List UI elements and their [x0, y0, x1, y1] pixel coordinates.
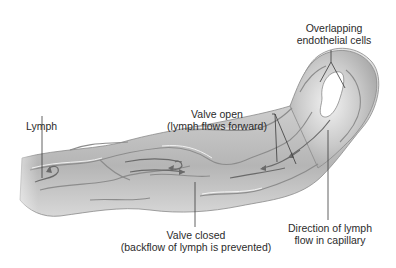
lymph-capillary-diagram: Overlapping endothelial cells Valve open…	[0, 0, 396, 268]
label-direction-line1: Direction of lymph	[280, 222, 380, 234]
label-valve-closed-line2: (backflow of lymph is prevented)	[120, 241, 272, 253]
label-direction-line2: flow in capillary	[280, 234, 380, 246]
label-valve-open-line1: Valve open	[158, 108, 276, 120]
label-valve-open-line2: (lymph flows forward)	[158, 120, 276, 132]
label-valve-open: Valve open (lymph flows forward)	[158, 108, 276, 132]
label-valve-closed-line1: Valve closed	[120, 229, 272, 241]
label-overlapping-line2: endothelial cells	[292, 34, 376, 46]
label-valve-closed: Valve closed (backflow of lymph is preve…	[120, 229, 272, 253]
label-lymph-text: Lymph	[26, 120, 57, 132]
label-overlapping-endothelial-cells: Overlapping endothelial cells	[292, 22, 376, 46]
label-lymph: Lymph	[26, 120, 57, 132]
label-direction-of-flow: Direction of lymph flow in capillary	[280, 222, 380, 246]
label-overlapping-line1: Overlapping	[292, 22, 376, 34]
